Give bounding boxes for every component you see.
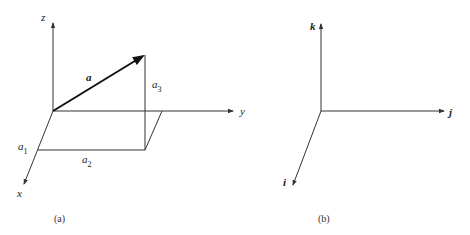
a3-label: a3 xyxy=(152,78,162,94)
panel-b: k j i (b) xyxy=(283,20,453,225)
i-axis xyxy=(293,111,321,185)
vector-a xyxy=(53,56,143,111)
k-axis-label: k xyxy=(310,20,316,32)
j-axis-label: j xyxy=(447,106,453,118)
a1-label: a1 xyxy=(18,140,28,156)
vector-diagram: z y x a a3 a1 a2 (a) k j i (b) xyxy=(0,0,470,235)
i-axis-label: i xyxy=(283,176,287,188)
caption-a: (a) xyxy=(54,213,65,225)
x-axis xyxy=(24,111,53,184)
z-axis-label: z xyxy=(40,11,46,23)
y-axis-label: y xyxy=(239,105,245,117)
component-parallelogram xyxy=(38,111,162,150)
a2-label: a2 xyxy=(82,153,92,169)
vector-a-label: a xyxy=(86,71,92,83)
panel-a: z y x a a3 a1 a2 (a) xyxy=(16,11,245,225)
x-axis-label: x xyxy=(16,187,22,199)
caption-b: (b) xyxy=(318,213,330,225)
